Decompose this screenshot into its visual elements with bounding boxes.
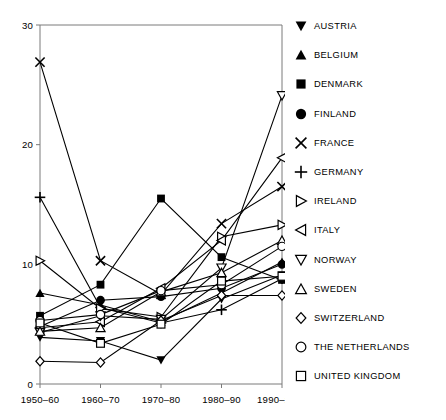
x-tick-label-3: 1980–90 [202, 394, 241, 405]
data-point-the-netherlands-1 [96, 310, 104, 318]
data-point-the-netherlands-2 [157, 287, 165, 295]
data-point-united-kingdom-1 [97, 339, 105, 347]
plot-area: 01020301950–601960–701970–801980–901990–… [0, 0, 285, 420]
y-tick-label-2: 20 [22, 139, 33, 150]
legend-item-switzerland[interactable]: SWITZERLAND [288, 310, 384, 326]
data-point-austria-2 [156, 356, 165, 364]
data-point-united-kingdom-3 [218, 277, 226, 285]
data-point-switzerland-1 [96, 358, 104, 367]
legend-marker-diamond-open-icon [288, 310, 314, 326]
y-tick-label-0: 0 [27, 379, 33, 390]
legend-marker-triangle-right-open-icon [288, 193, 314, 209]
legend-item-ireland[interactable]: IRELAND [288, 193, 357, 209]
legend-label: ITALY [314, 222, 340, 238]
legend-item-france[interactable]: FRANCE [288, 135, 354, 151]
y-tick-label-3: 30 [22, 20, 33, 31]
legend-marker-circle-filled-icon [288, 106, 314, 122]
chart-page: 01020301950–601960–701970–801980–901990–… [0, 0, 446, 420]
series-line-ireland [40, 225, 282, 317]
legend-item-united-kingdom[interactable]: UNITED KINGDOM [288, 368, 401, 384]
legend-label: FINLAND [314, 106, 356, 122]
legend-item-italy[interactable]: ITALY [288, 222, 340, 238]
data-point-germany-3 [216, 305, 227, 316]
data-point-the-netherlands-4 [278, 242, 285, 250]
legend-item-finland[interactable]: FINLAND [288, 106, 356, 122]
legend-item-denmark[interactable]: DENMARK [288, 76, 363, 92]
x-tick-label-1: 1960–70 [81, 394, 120, 405]
series-line-italy [40, 158, 282, 328]
chart-legend: AUSTRIABELGIUMDENMARKFINLANDFRANCEGERMAN… [288, 0, 446, 420]
legend-label: GERMANY [314, 164, 363, 180]
x-tick-label-0: 1950–60 [21, 394, 60, 405]
legend-marker-triangle-left-open-icon [288, 222, 314, 238]
data-point-germany-0 [35, 192, 46, 203]
legend-label: IRELAND [314, 193, 357, 209]
data-point-denmark-1 [97, 281, 105, 289]
legend-item-the-netherlands[interactable]: THE NETHERLANDS [288, 339, 410, 355]
legend-marker-square-filled-icon [288, 76, 314, 92]
line-chart-svg: 01020301950–601960–701970–801980–901990–… [0, 0, 285, 420]
data-point-united-kingdom-0 [36, 319, 44, 327]
data-point-italy-4 [277, 153, 285, 162]
legend-label: DENMARK [314, 76, 363, 92]
legend-item-germany[interactable]: GERMANY [288, 164, 363, 180]
data-point-denmark-3 [218, 253, 226, 261]
data-point-united-kingdom-2 [157, 320, 165, 328]
legend-label: NORWAY [314, 252, 357, 268]
data-point-switzerland-0 [36, 357, 44, 366]
data-point-france-3 [217, 219, 226, 228]
legend-label: AUSTRIA [314, 18, 357, 34]
legend-marker-square-open-icon [288, 368, 314, 384]
data-point-switzerland-3 [217, 291, 225, 300]
data-point-ireland-4 [278, 220, 285, 229]
y-tick-label-1: 10 [22, 259, 33, 270]
x-tick-label-4: 1990–2000 [257, 394, 285, 405]
legend-marker-cross-x-icon [288, 135, 314, 151]
series-line-the-netherlands [40, 246, 282, 320]
data-point-norway-4 [277, 92, 285, 100]
legend-item-norway[interactable]: NORWAY [288, 252, 357, 268]
data-point-belgium-0 [35, 289, 44, 297]
legend-label: FRANCE [314, 135, 354, 151]
legend-item-austria[interactable]: AUSTRIA [288, 18, 357, 34]
data-point-france-1 [96, 256, 105, 265]
data-point-united-kingdom-4 [278, 272, 285, 280]
x-tick-label-2: 1970–80 [142, 394, 181, 405]
data-point-switzerland-4 [278, 291, 285, 300]
legend-marker-triangle-up-filled-icon [288, 47, 314, 63]
data-point-finland-4 [278, 260, 285, 269]
legend-marker-triangle-up-open-icon [288, 281, 314, 297]
legend-marker-triangle-down-open-icon [288, 252, 314, 268]
legend-marker-triangle-down-filled-icon [288, 18, 314, 34]
legend-label: THE NETHERLANDS [314, 339, 410, 355]
legend-label: SWEDEN [314, 281, 357, 297]
data-point-sweden-3 [217, 268, 226, 276]
legend-marker-circle-open-icon [288, 339, 314, 355]
legend-item-belgium[interactable]: BELGIUM [288, 47, 358, 63]
data-point-france-4 [277, 182, 285, 191]
data-point-denmark-2 [157, 195, 165, 203]
legend-item-sweden[interactable]: SWEDEN [288, 281, 357, 297]
legend-marker-plus-icon [288, 164, 314, 180]
legend-label: UNITED KINGDOM [314, 368, 401, 384]
legend-label: SWITZERLAND [314, 310, 384, 326]
legend-label: BELGIUM [314, 47, 358, 63]
